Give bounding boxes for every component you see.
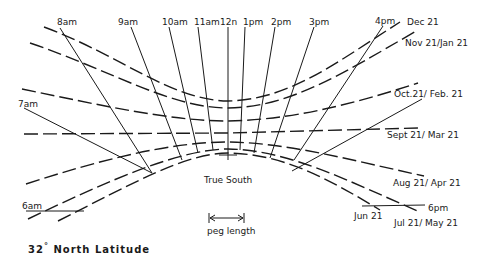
hour-label-7am: 7am [18,100,38,109]
date-line-nov-jan [30,30,418,108]
hour-line-1pm [240,27,245,150]
hour-label-8am: 8am [57,18,77,27]
hour-label-2pm: 2pm [271,18,291,27]
hour-label-1pm: 1pm [243,18,263,27]
hour-label-9am: 9am [118,18,138,27]
hour-label-12n: 12n [220,18,237,27]
degree-symbol: ° [44,242,49,251]
hour-line-9am [131,27,182,160]
date-label-sep-mar: Sept 21/ Mar 21 [387,131,459,140]
hour-line-2pm [254,27,275,153]
hour-line-11am [198,27,213,150]
hour-label-3pm: 3pm [309,18,329,27]
date-label-dec21: Dec 21 [407,18,439,27]
true-south-label: True South [204,176,252,185]
hour-label-11am: 11am [194,18,220,27]
date-label-jun21: Jun 21 [354,212,382,221]
hour-line-10am [169,27,198,153]
hour-label-6pm: 6pm [428,204,448,213]
date-label-aug-apr: Aug 21/ Apr 21 [393,179,461,188]
date-label-nov-jan: Nov 21/Jan 21 [405,39,468,48]
date-line-oct-feb [22,83,418,121]
date-line-jun21 [58,153,380,221]
date-line-dec21 [44,22,400,101]
latitude-value: 32 [28,244,44,255]
hour-label-6am: 6am [22,202,42,211]
peg-length-label: peg length [207,227,256,236]
hour-label-4pm: 4pm [375,17,395,26]
hour-label-10am: 10am [162,18,188,27]
latitude-suffix: North Latitude [53,244,150,255]
date-lines [22,22,424,221]
hour-line-6pm [362,205,425,206]
date-label-oct-feb: Oct.21/ Feb. 21 [394,90,463,99]
hour-line-7am [24,108,152,173]
hour-line-8am [60,28,152,173]
date-label-jul-may: Jul 21/ May 21 [394,219,458,228]
latitude-label: 32° North Latitude [28,243,150,255]
